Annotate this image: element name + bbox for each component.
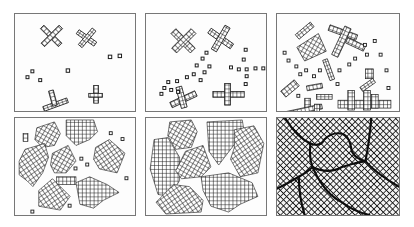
growing-nuclei-illustration — [146, 14, 266, 111]
nuclei-illustration — [15, 14, 135, 111]
panel-impingement — [145, 117, 267, 216]
polycrystal-grains-illustration — [277, 118, 399, 215]
panel-nucleation — [14, 13, 136, 112]
impinging-crystals-illustration — [146, 118, 266, 215]
panel-early-growth — [145, 13, 267, 112]
panel-dendritic-growth — [276, 13, 400, 112]
panel-crystallite-growth — [14, 117, 136, 216]
panel-grain-boundaries — [276, 117, 400, 216]
dendrites-illustration — [277, 14, 399, 111]
crystallites-illustration — [15, 118, 135, 215]
